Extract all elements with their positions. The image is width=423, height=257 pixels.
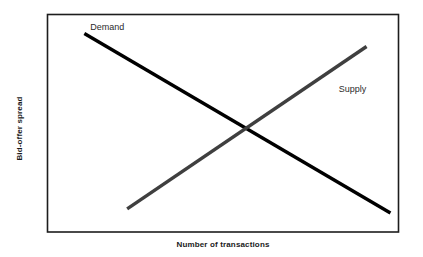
y-axis-title: Bid-offer spread bbox=[16, 0, 28, 257]
demand-curve-label: Demand bbox=[90, 23, 124, 32]
plot-background bbox=[0, 0, 423, 257]
supply-demand-chart bbox=[0, 0, 423, 257]
x-axis-title: Number of transactions bbox=[47, 241, 399, 249]
supply-curve-label: Supply bbox=[339, 85, 367, 94]
chart-figure: Demand Supply Bid-offer spread Number of… bbox=[0, 0, 423, 257]
